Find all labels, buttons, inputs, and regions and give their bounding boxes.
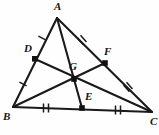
point-marker-f	[102, 60, 108, 66]
point-marker-e	[79, 105, 85, 111]
geometry-canvas	[0, 0, 159, 135]
median-c-to-d	[35, 59, 152, 112]
label-e: E	[85, 91, 92, 102]
tick-mark-af-double	[78, 35, 87, 44]
triangle-side-ab	[13, 18, 57, 107]
label-c: C	[150, 116, 157, 127]
tick-mark-ad-single	[38, 36, 45, 40]
point-marker-g	[71, 76, 77, 82]
label-g: G	[69, 61, 77, 72]
label-a: A	[54, 1, 61, 12]
label-d: D	[24, 43, 32, 54]
label-f: F	[104, 46, 111, 57]
label-b: B	[3, 111, 10, 122]
geometry-figure: A B C D E F G	[0, 0, 159, 135]
point-marker-d	[32, 56, 38, 62]
